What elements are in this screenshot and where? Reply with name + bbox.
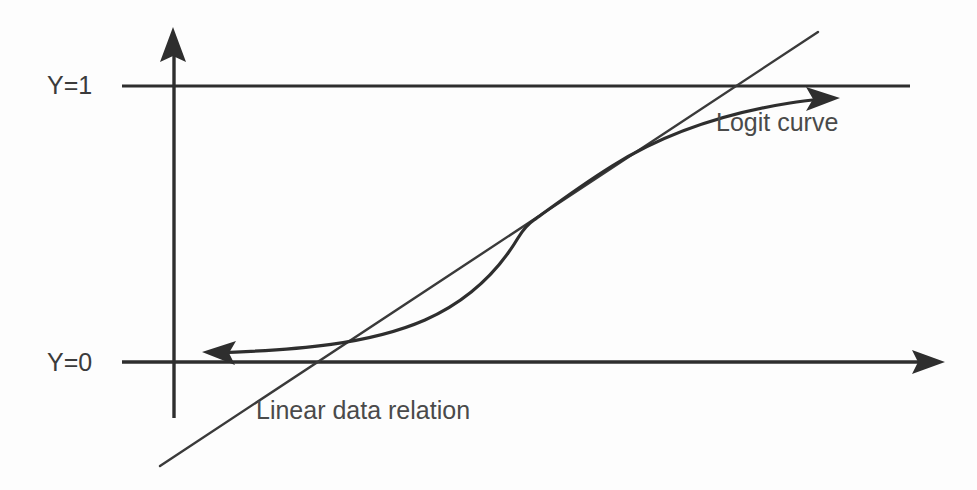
logit-curve-label: Logit curve bbox=[716, 110, 838, 135]
logit-curve-path bbox=[214, 99, 822, 353]
y-equals-zero-label: Y=0 bbox=[47, 350, 92, 375]
figure-canvas: Y=1 Y=0 Logit curve Linear data relation bbox=[0, 0, 977, 490]
linear-relation-label: Linear data relation bbox=[256, 398, 470, 423]
y-equals-one-label: Y=1 bbox=[47, 73, 92, 98]
chart-plot bbox=[0, 0, 977, 490]
